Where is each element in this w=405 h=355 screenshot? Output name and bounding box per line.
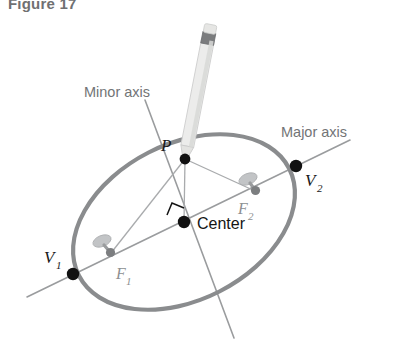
pin-point-f1 xyxy=(106,248,115,257)
pencil-eraser xyxy=(203,23,217,34)
right-angle-marker xyxy=(167,203,184,215)
vertex-2-dot xyxy=(290,160,302,172)
vertex-2-label-subscript: 2 xyxy=(317,182,323,194)
pencil-icon xyxy=(178,23,217,162)
string-segments xyxy=(111,159,255,253)
vertex-1-label: V 1 xyxy=(44,248,62,271)
vertex-1-label-subscript: 1 xyxy=(56,259,62,271)
focus-2-label-subscript: 2 xyxy=(248,210,254,222)
minor-axis-label: Minor axis xyxy=(84,84,150,100)
figure-container: Figure 17 xyxy=(0,0,405,355)
pushpin-f2-icon xyxy=(237,170,260,195)
point-p-label: P xyxy=(160,136,171,155)
vertex-2-label: V 2 xyxy=(305,171,323,194)
major-axis-label: Major axis xyxy=(281,124,347,140)
focus-1-label: F 1 xyxy=(115,265,132,287)
focus-1-label-text: F xyxy=(115,265,126,282)
segment-center-p xyxy=(184,159,185,222)
center-label: Center xyxy=(197,215,246,232)
pin-point-f2 xyxy=(251,186,260,195)
vertex-1-dot xyxy=(67,268,79,280)
pushpin-f1-icon xyxy=(91,232,115,257)
point-p-dot xyxy=(180,154,191,165)
focus-1-label-subscript: 1 xyxy=(126,275,132,287)
center-dot xyxy=(178,216,190,228)
ellipse-diagram: Minor axis Major axis Center P V 1 V 2 F… xyxy=(0,0,405,355)
pin-head-f1 xyxy=(91,232,113,249)
focus-2-label-text: F xyxy=(237,200,248,217)
figure-caption: Figure 17 xyxy=(8,0,77,12)
